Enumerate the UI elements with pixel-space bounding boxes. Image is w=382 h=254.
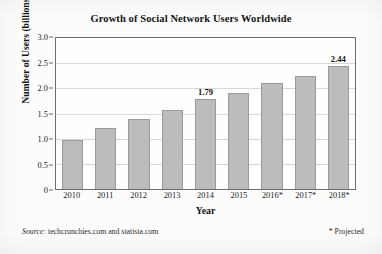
chart-footer: Source:techcrunchies.com and statista.co… — [22, 227, 364, 236]
y-axis-tick-mark — [49, 190, 53, 191]
y-axis-tick-label: 2.0 — [38, 84, 48, 93]
source-note-label: Source: — [22, 227, 46, 236]
bar-series: 1.792.44 — [56, 38, 355, 189]
chart-title: Growth of Social Network Users Worldwide — [0, 13, 382, 24]
bar-slot — [289, 38, 322, 189]
x-axis-tick-label: 2018* — [323, 191, 356, 205]
y-axis-tick-mark — [49, 88, 53, 89]
x-axis-tick-label: 2016* — [256, 191, 289, 205]
bar-slot — [255, 38, 288, 189]
y-axis-tick-label: 2.5 — [38, 58, 48, 67]
bar-slot — [56, 38, 89, 189]
y-axis-tick-label: 0.5 — [38, 160, 48, 169]
source-note-text: techcrunchies.com and statista.com — [48, 227, 158, 236]
bar[interactable] — [195, 99, 216, 189]
bar-value-label: 1.79 — [198, 87, 213, 97]
x-axis-ticks: 2010201120122013201420152016*2017*2018* — [55, 191, 356, 205]
bar[interactable] — [328, 66, 349, 189]
x-axis-label: Year — [55, 205, 356, 216]
y-axis-tick-mark — [49, 37, 53, 38]
x-axis-tick-label: 2014 — [189, 191, 222, 205]
y-axis-tick-label: 0 — [44, 186, 48, 195]
bar[interactable] — [128, 119, 149, 189]
x-axis-tick-label: 2013 — [155, 191, 188, 205]
y-axis-ticks: 00.51.01.52.02.53.0 — [0, 37, 53, 190]
bar-slot — [156, 38, 189, 189]
bar[interactable] — [95, 128, 116, 189]
y-axis-tick-mark — [49, 164, 53, 165]
bar-slot: 2.44 — [322, 38, 355, 189]
projected-note: * Projected — [329, 227, 364, 236]
x-axis-tick-label: 2017* — [289, 191, 322, 205]
y-axis-tick-label: 3.0 — [38, 33, 48, 42]
bar[interactable] — [295, 76, 316, 189]
x-axis-tick-label: 2011 — [88, 191, 121, 205]
y-axis-tick-mark — [49, 139, 53, 140]
y-axis-tick-label: 1.0 — [38, 135, 48, 144]
bar[interactable] — [228, 93, 249, 189]
y-axis-tick-mark — [49, 62, 53, 63]
bar-slot: 1.79 — [189, 38, 222, 189]
bar[interactable] — [261, 83, 282, 189]
bar-slot — [89, 38, 122, 189]
bar-slot — [122, 38, 155, 189]
y-axis-tick-label: 1.5 — [38, 109, 48, 118]
bar-chart-figure: Growth of Social Network Users Worldwide… — [0, 0, 382, 254]
x-axis-tick-label: 2012 — [122, 191, 155, 205]
bar-value-label: 2.44 — [331, 54, 346, 64]
source-note: Source:techcrunchies.com and statista.co… — [22, 227, 158, 236]
y-axis-tick-mark — [49, 113, 53, 114]
bar[interactable] — [62, 140, 83, 189]
plot-area: 1.792.44 — [55, 37, 356, 190]
x-axis-tick-label: 2015 — [222, 191, 255, 205]
x-axis-tick-label: 2010 — [55, 191, 88, 205]
bar-slot — [222, 38, 255, 189]
bar[interactable] — [162, 110, 183, 189]
